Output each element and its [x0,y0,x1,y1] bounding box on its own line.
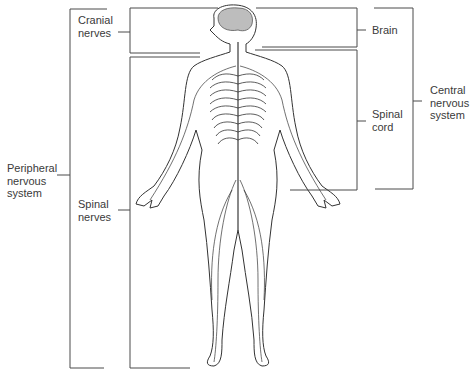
label-brain: Brain [372,24,398,37]
nervous-system-diagram [0,0,473,378]
brain-shape [218,8,252,31]
label-cranial-nerves: Cranial nerves [78,14,113,39]
cranial-bracket [130,8,218,53]
brain-bracket [256,8,357,47]
label-spinal-cord: Spinal cord [372,108,403,133]
spinal-cord-bracket [255,50,357,190]
human-figure [136,5,340,366]
pns-bracket [70,9,107,368]
label-central-nervous-system: Central nervous system [430,84,469,122]
label-spinal-nerves: Spinal nerves [78,198,111,223]
spinal-nerves-bracket [130,57,200,368]
label-peripheral-nervous-system: Peripheral nervous system [7,162,57,200]
